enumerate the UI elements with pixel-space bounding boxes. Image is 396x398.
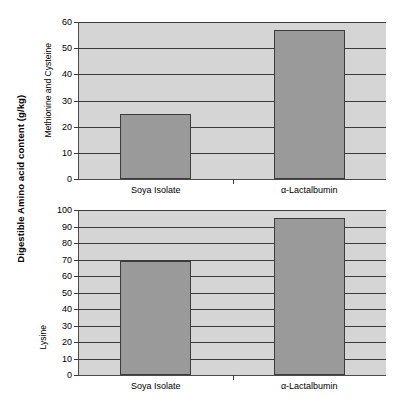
bar [274,218,345,375]
y-axis-tick-label: 20 [62,122,72,131]
x-axis-tick-label: Soya Isolate [131,186,181,195]
plot-area-bottom: 0102030405060708090100Soya Isolateα-Lact… [78,210,386,376]
y-axis-tick-label: 0 [67,175,72,184]
y-axis-tick [74,342,79,343]
y-axis-tick-label: 20 [62,338,72,347]
y-axis-tick-label: 60 [62,272,72,281]
y-axis-tick [74,276,79,277]
y-axis-tick-label: 60 [62,18,72,27]
y-axis-tick [74,74,79,75]
figure: Digestible Amino acid content (g/kg) Met… [0,0,396,398]
y-axis-label-bottom: Lysine [39,257,48,398]
y-axis-tick-label: 90 [62,222,72,231]
y-axis-tick-label: 10 [62,148,72,157]
y-axis-tick [74,127,79,128]
y-axis-tick [74,48,79,49]
gridline [79,210,386,211]
x-axis-tick [233,179,234,184]
chart-panel-methionine-cysteine: Methionine and Cysteine 0102030405060Soy… [0,8,396,196]
y-axis-tick-label: 50 [62,44,72,53]
y-axis-tick-label: 50 [62,288,72,297]
y-axis-tick-label: 40 [62,305,72,314]
x-axis-tick-label: Soya Isolate [131,382,181,391]
y-axis-tick-label: 10 [62,354,72,363]
y-axis-tick [74,359,79,360]
y-axis-tick [74,326,79,327]
chart-panel-lysine: Lysine 0102030405060708090100Soya Isolat… [0,200,396,396]
y-axis-tick [74,153,79,154]
y-axis-tick [74,210,79,211]
y-axis-label-top: Methionine and Cysteine [44,10,53,170]
bar [120,114,191,179]
y-axis-tick [74,375,79,376]
y-axis-tick [74,260,79,261]
y-axis-tick-label: 70 [62,255,72,264]
y-axis-tick-label: 100 [57,206,72,215]
gridline [79,22,386,23]
y-axis-tick [74,22,79,23]
y-axis-tick [74,243,79,244]
y-axis-tick-label: 30 [62,96,72,105]
y-axis-tick-label: 80 [62,239,72,248]
x-axis-tick [233,375,234,380]
y-axis-tick-label: 30 [62,321,72,330]
plot-area-top: 0102030405060Soya Isolateα-Lactalbumin [78,22,386,180]
y-axis-tick [74,179,79,180]
bar [120,261,191,375]
y-axis-tick-label: 40 [62,70,72,79]
y-axis-tick [74,293,79,294]
x-axis-tick-label: α-Lactalbumin [281,382,338,391]
y-axis-tick [74,227,79,228]
y-axis-tick [74,309,79,310]
y-axis-tick [74,101,79,102]
bar [274,30,345,179]
y-axis-tick-label: 0 [67,371,72,380]
x-axis-tick-label: α-Lactalbumin [281,186,338,195]
